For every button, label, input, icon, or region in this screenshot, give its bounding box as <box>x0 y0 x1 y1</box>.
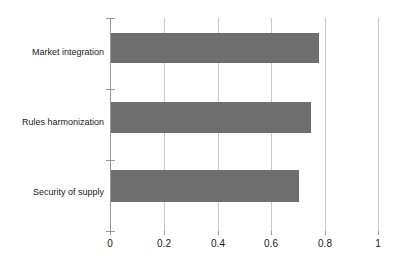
y-axis-line <box>110 18 111 231</box>
bar-security-of-supply[interactable] <box>110 170 299 202</box>
x-axis-tick-mark-0.6 <box>271 231 272 235</box>
x-axis-tick-label-0.6: 0.6 <box>256 238 286 250</box>
y-axis-label-security-of-supply: Security of supply <box>0 187 104 198</box>
x-axis-tick-label-0.2: 0.2 <box>149 238 179 250</box>
bar-rules-harmonization[interactable] <box>110 102 311 133</box>
gridline-1 <box>378 18 379 231</box>
bar-chart: Market integration Rules harmonization S… <box>0 0 398 261</box>
x-axis-tick-mark-0 <box>110 231 111 235</box>
x-axis-tick-mark-0.8 <box>325 231 326 235</box>
y-axis-label-rules-harmonization: Rules harmonization <box>0 117 104 128</box>
y-axis-tick-1 <box>106 89 115 90</box>
bar-market-integration[interactable] <box>110 33 319 63</box>
gridline-0.8 <box>325 18 326 231</box>
y-axis-tick-2 <box>106 160 115 161</box>
x-axis-tick-mark-1 <box>378 231 379 235</box>
x-axis-tick-mark-0.4 <box>218 231 219 235</box>
x-axis-tick-label-1: 1 <box>363 238 393 250</box>
y-axis-top-cap <box>106 18 115 19</box>
y-axis-label-market-integration: Market integration <box>0 47 104 58</box>
x-axis-tick-mark-0.2 <box>164 231 165 235</box>
x-axis-tick-label-0.8: 0.8 <box>310 238 340 250</box>
x-axis-tick-label-0: 0 <box>95 238 125 250</box>
x-axis-tick-label-0.4: 0.4 <box>203 238 233 250</box>
plot-area <box>110 18 379 231</box>
